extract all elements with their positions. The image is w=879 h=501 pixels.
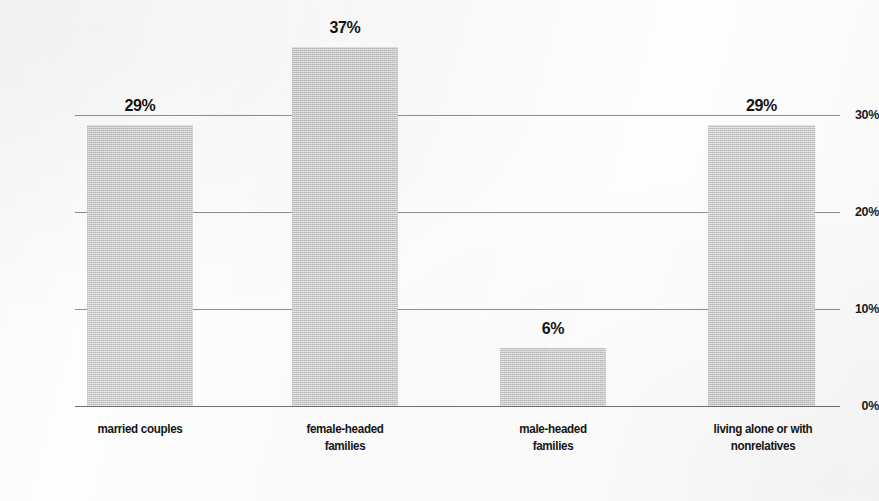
ytick-label-10: 10% [815, 302, 879, 316]
bar-value-living-alone: 29% [708, 97, 815, 115]
category-label-married-couples: married couples [66, 421, 215, 438]
ytick-label-30: 30% [815, 108, 879, 122]
bar-value-male-headed-families: 6% [500, 320, 606, 338]
category-label-living-alone: living alone or with nonrelatives [679, 421, 846, 455]
bar-chart: 0% 10% 20% 30% 29% 37% 6% 29% married co… [0, 0, 879, 501]
category-label-female-headed-families: female-headed families [271, 421, 420, 455]
bar-value-married-couples: 29% [87, 97, 193, 115]
gridline-0 [75, 406, 840, 407]
gridline-30 [75, 115, 840, 116]
bar-married-couples [87, 125, 193, 406]
ytick-label-20: 20% [815, 205, 879, 219]
bar-male-headed-families [500, 348, 606, 406]
plot-area: 0% 10% 20% 30% 29% 37% 6% 29% married co… [0, 0, 879, 501]
category-label-male-headed-families: male-headed families [479, 421, 628, 455]
bar-living-alone [708, 125, 815, 406]
bar-value-female-headed-families: 37% [292, 19, 398, 37]
bar-female-headed-families [292, 47, 398, 406]
